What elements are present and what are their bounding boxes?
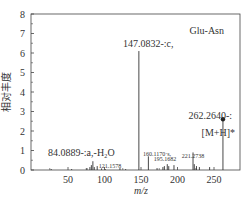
peak-label: 221.2738 bbox=[182, 153, 205, 159]
peak-label: 195.1682 bbox=[154, 156, 177, 162]
y-tick-label: 2 bbox=[20, 126, 25, 137]
peak-label: [M+H]* bbox=[202, 127, 235, 138]
peak-label: 262.2640-: bbox=[188, 110, 232, 121]
y-tick-label: 4 bbox=[20, 87, 25, 98]
y-tick-label: 3 bbox=[20, 106, 25, 117]
x-tick-label: 150 bbox=[134, 174, 149, 185]
y-axis: 012345678 bbox=[20, 9, 34, 176]
x-tick-label: 250 bbox=[207, 174, 222, 185]
y-tick-label: 6 bbox=[20, 48, 25, 59]
peak-label: 84.0889-:a,-H₂O bbox=[48, 147, 115, 158]
peak-label: 121.1578 bbox=[99, 163, 122, 169]
y-tick-label: 7 bbox=[20, 28, 25, 39]
y-tick-label: 1 bbox=[20, 145, 25, 156]
x-tick-label: 200 bbox=[170, 174, 185, 185]
y-tick-label: 0 bbox=[20, 165, 25, 176]
x-tick-label: 100 bbox=[97, 174, 112, 185]
mass-spectrum-chart: 012345678 50100150200250 147.0832-:c,262… bbox=[0, 0, 246, 202]
x-axis-label: m/z bbox=[134, 185, 148, 196]
peak-annotations: 147.0832-:c,262.2640-:[M+H]*84.0889-:a,-… bbox=[48, 38, 235, 169]
peak-label: 147.0832-:c, bbox=[123, 38, 174, 49]
chart-title: Glu-Asn bbox=[190, 25, 224, 36]
x-tick-label: 50 bbox=[63, 174, 73, 185]
y-axis-label: 相对丰度 bbox=[0, 72, 12, 112]
y-tick-label: 8 bbox=[20, 9, 25, 20]
y-tick-label: 5 bbox=[20, 67, 25, 78]
